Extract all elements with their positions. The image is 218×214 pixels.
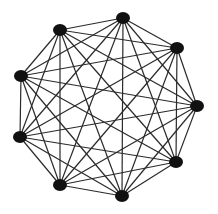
graph-node <box>116 12 130 24</box>
graph-edge <box>176 106 197 162</box>
graph-node <box>169 156 183 168</box>
graph-node <box>53 24 67 36</box>
graph-edges <box>20 18 197 196</box>
graph-node <box>13 131 27 143</box>
graph-node <box>190 100 204 112</box>
graph-edge <box>20 137 60 185</box>
graph-nodes <box>13 12 204 202</box>
graph-edge <box>60 30 177 48</box>
graph-edge <box>122 106 197 196</box>
graph-node <box>170 42 184 54</box>
graph-edge <box>177 48 197 106</box>
graph-node <box>53 179 67 191</box>
graph-node <box>14 70 28 82</box>
graph-edge <box>21 30 60 76</box>
complete-graph-diagram <box>0 0 218 214</box>
graph-edge <box>176 48 177 162</box>
graph-node <box>115 190 129 202</box>
graph-edge <box>20 30 60 137</box>
graph-edge <box>122 18 123 196</box>
graph-edge <box>20 76 21 137</box>
